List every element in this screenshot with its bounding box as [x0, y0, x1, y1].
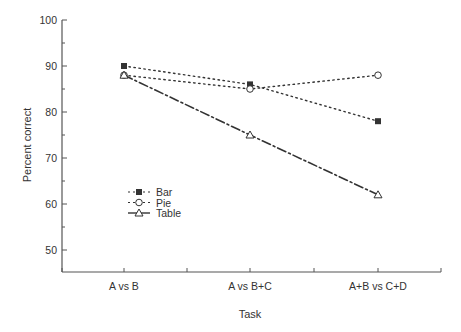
legend: BarPieTable [128, 186, 181, 219]
pie-marker-circle-icon [247, 86, 254, 93]
legend-label: Table [156, 207, 181, 219]
x-axis-label: Task [239, 308, 262, 320]
y-tick-label: 100 [39, 14, 57, 26]
bar-marker-square-icon [121, 63, 127, 69]
series-layer [120, 63, 382, 198]
x-tick-label: A vs B [109, 280, 139, 292]
line-chart: 5060708090100A vs BA vs B+CA+B vs C+D Ba… [0, 0, 461, 332]
x-tick-label: A+B vs C+D [349, 280, 407, 292]
axes: 5060708090100A vs BA vs B+CA+B vs C+D [39, 14, 441, 292]
bar-marker-square-icon [375, 118, 381, 124]
y-axis-label: Percent correct [21, 108, 33, 183]
y-tick-label: 70 [45, 152, 57, 164]
y-tick-label: 90 [45, 60, 57, 72]
pie-marker-circle-icon [375, 72, 382, 79]
bar-marker-square-icon [136, 189, 142, 195]
y-tick-label: 60 [45, 198, 57, 210]
y-tick-label: 80 [45, 106, 57, 118]
series-bar [121, 63, 381, 124]
y-tick-label: 50 [45, 244, 57, 256]
legend-item-table: Table [128, 207, 181, 219]
x-tick-label: A vs B+C [228, 280, 272, 292]
pie-marker-circle-icon [136, 199, 143, 206]
